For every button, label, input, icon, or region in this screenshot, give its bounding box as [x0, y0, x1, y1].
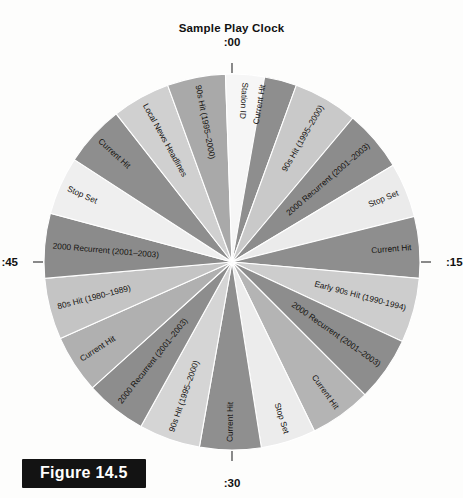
play-clock-figure: Current Hit90s Hit (1995–2000)2000 Recur…	[0, 0, 463, 498]
pie-wedge-label: Current Hit	[225, 401, 235, 442]
tick-30: :30	[224, 477, 241, 489]
tick-45: :45	[1, 256, 18, 268]
play-clock-pie[interactable]: Current Hit90s Hit (1995–2000)2000 Recur…	[0, 0, 463, 498]
tick-15: :15	[446, 256, 463, 268]
pie-wedge-group	[44, 74, 420, 450]
tick-00: :00	[224, 36, 241, 48]
figure-caption: Figure 14.5	[22, 459, 146, 488]
